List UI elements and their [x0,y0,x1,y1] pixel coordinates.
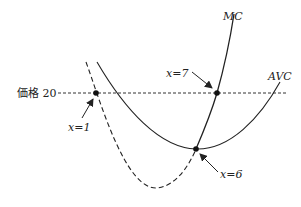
point-x6 [193,146,199,152]
mc-label: MC [222,10,243,23]
arrow-x6 [200,154,218,172]
point-x1 [93,90,99,96]
arrow-x1 [82,99,93,118]
avc-label: AVC [267,70,292,83]
arrow-x7 [192,72,212,88]
x7-label: x=7 [166,67,188,80]
price-label: 価格 20 [17,86,57,100]
mc-curve-dashed [86,62,196,188]
point-x7 [214,90,220,96]
mc-curve [196,14,234,149]
x6-label: x=6 [220,168,242,181]
avc-curve [97,62,280,149]
x1-label: x=1 [68,121,90,134]
cost-curve-diagram: 価格 20 MC AVC x=1 x=7 x=6 [0,0,301,207]
